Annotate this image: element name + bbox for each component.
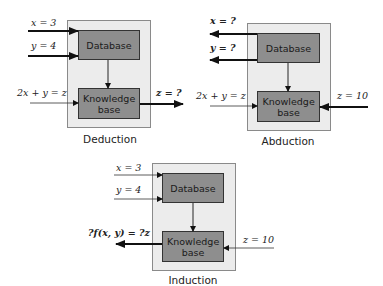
deduction-knowledge-box: Knowledge base [78,88,140,119]
abduction-knowledge-label: Knowledge base [263,96,315,118]
deduction-knowledge-label: Knowledge base [83,93,135,115]
deduction-input-y: y = 4 [31,40,56,51]
abduction-input-rule: 2x + y = z [196,90,246,101]
induction-knowledge-label: Knowledge base [167,236,219,258]
abduction-output-x: x = ? [210,15,236,26]
induction-input-z: z = 10 [243,234,274,245]
abduction-input-z: z = 10 [337,90,368,101]
induction-knowledge-box: Knowledge base [162,231,224,262]
deduction-database-box: Database [78,30,140,60]
induction-output-function: ?f(x, y) = ?z [88,227,150,238]
abduction-output-y: y = ? [210,42,236,53]
induction-input-y: y = 4 [116,184,141,195]
deduction-database-label: Database [86,40,131,51]
abduction-caption: Abduction [258,135,318,147]
induction-database-box: Database [162,173,224,203]
deduction-caption: Deduction [80,133,140,145]
induction-database-label: Database [170,183,215,194]
deduction-input-rule: 2x + y = z [17,87,67,98]
abduction-knowledge-box: Knowledge base [257,91,320,122]
induction-caption: Induction [163,274,223,286]
deduction-output-z: z = ? [156,87,182,98]
abduction-database-label: Database [266,43,311,54]
deduction-input-x: x = 3 [31,17,56,28]
induction-input-x: x = 3 [116,162,141,173]
abduction-database-box: Database [257,33,320,63]
